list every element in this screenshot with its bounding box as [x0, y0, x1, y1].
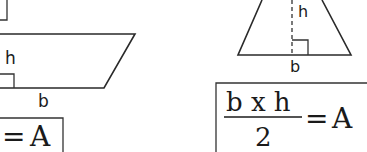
right-angle-marker: [292, 40, 308, 55]
triangle-base-label: b: [290, 57, 300, 76]
parallelogram-base-label: b: [38, 91, 49, 111]
triangle-figure: h b: [238, 0, 351, 76]
formula-equals-sign: =: [2, 120, 25, 152]
parallelogram-figure: h b: [0, 0, 135, 111]
parallelogram-height-label: h: [5, 48, 16, 68]
parallelogram-formula-box: = A: [0, 118, 63, 152]
top-left-box-fragment: [0, 0, 7, 20]
formula-denominator: 2: [255, 122, 272, 152]
formula-numerator: b x h: [226, 87, 291, 117]
formula-result-area: A: [331, 102, 353, 135]
triangle-formula-box: b x h 2 = A: [216, 83, 367, 152]
right-angle-marker: [0, 74, 14, 88]
formula-result-area: A: [29, 120, 51, 152]
area-formulas-diagram: h b = A h b b x h 2 = A: [0, 0, 367, 152]
parallelogram-outline: [0, 34, 135, 88]
triangle-height-label: h: [298, 2, 308, 21]
triangle-outline: [238, 0, 351, 55]
formula-equals-sign: =: [305, 102, 328, 135]
